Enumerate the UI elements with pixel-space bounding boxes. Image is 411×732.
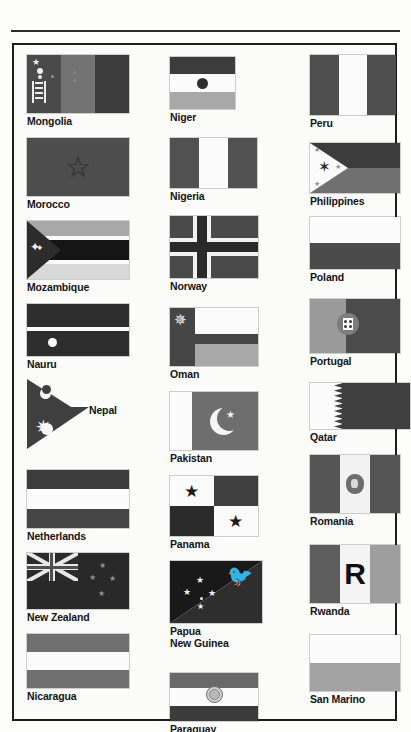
flag-entry-nauru[interactable]: Nauru (27, 304, 145, 371)
flag-caption-romania: Romania (310, 516, 411, 528)
flag-caption-new-zealand: New Zealand (27, 612, 145, 624)
flag-image-philippines: ✶ ★ ★ ★ (310, 143, 400, 193)
flag-image-san-marino (310, 635, 400, 691)
flag-caption-netherlands: Netherlands (27, 531, 145, 543)
flag-image-poland (310, 217, 400, 269)
flag-entry-poland[interactable]: Poland (310, 217, 411, 284)
flag-caption-norway: Norway (170, 281, 288, 293)
flag-entry-oman[interactable]: ✵ Oman (170, 308, 288, 381)
flag-entry-peru[interactable]: Peru (310, 55, 411, 130)
flag-entry-rwanda[interactable]: R Rwanda (310, 545, 411, 618)
flag-image-nicaragua (27, 634, 129, 688)
flag-caption-morocco: Morocco (27, 199, 145, 211)
flag-entry-philippines[interactable]: ✶ ★ ★ ★ Philippines (310, 143, 411, 208)
flag-image-nigeria (170, 138, 257, 188)
flag-entry-new-zealand[interactable]: ★ ★ ★ ★ New Zealand (27, 553, 145, 624)
flag-image-norway (170, 216, 258, 278)
flag-entry-papua-new-guinea[interactable]: 🐦 ★ ★ ★ ★ Papua New Guinea (170, 561, 288, 649)
flag-entry-nicaragua[interactable]: Nicaragua (27, 634, 145, 703)
flag-image-peru (310, 55, 396, 115)
flag-image-morocco: ☆ (27, 138, 129, 196)
flag-entry-qatar[interactable]: Qatar (310, 383, 411, 444)
flag-image-romania (310, 455, 400, 513)
flag-column-2: Niger Nigeria Norway (170, 45, 288, 719)
flag-caption-pakistan: Pakistan (170, 453, 288, 465)
flag-entry-pakistan[interactable]: ★ Pakistan (170, 392, 288, 465)
flag-entry-paraguay[interactable]: Paraguay (170, 673, 288, 732)
flag-caption-nigeria: Nigeria (170, 191, 288, 203)
flag-image-rwanda: R (310, 545, 400, 603)
flag-entry-niger[interactable]: Niger (170, 57, 288, 124)
flag-entry-norway[interactable]: Norway (170, 216, 288, 293)
flag-caption-niger: Niger (170, 112, 288, 124)
flag-entry-mozambique[interactable]: ✦ ✦ Mozambique (27, 221, 145, 294)
flag-image-portugal (310, 299, 400, 353)
flag-caption-philippines: Philippines (310, 196, 411, 208)
flag-image-niger (170, 57, 235, 109)
flag-entry-nigeria[interactable]: Nigeria (170, 138, 288, 203)
flag-caption-mongolia: Mongolia (27, 116, 145, 128)
flag-column-3: Peru ✶ ★ ★ ★ Philippines (310, 45, 411, 719)
flag-caption-peru: Peru (310, 118, 411, 130)
flag-grid-plate: ★ Mongolia ☆ (12, 43, 397, 721)
flag-caption-qatar: Qatar (310, 432, 411, 444)
flag-caption-nepal: Nepal (89, 405, 117, 417)
flag-entry-morocco[interactable]: ☆ Morocco (27, 138, 145, 211)
flag-caption-portugal: Portugal (310, 356, 411, 368)
flag-image-mozambique: ✦ ✦ (27, 221, 129, 279)
flag-entry-panama[interactable]: ★ ★ Panama (170, 476, 288, 551)
flag-caption-poland: Poland (310, 272, 411, 284)
flag-caption-panama: Panama (170, 539, 288, 551)
flag-entry-romania[interactable]: Romania (310, 455, 411, 528)
flag-image-paraguay (170, 673, 258, 721)
flag-image-panama: ★ ★ (170, 476, 258, 536)
flag-image-pakistan: ★ (170, 392, 258, 450)
flag-entry-netherlands[interactable]: Netherlands (27, 470, 145, 543)
flag-image-papua-new-guinea: 🐦 ★ ★ ★ ★ (170, 561, 262, 623)
flag-image-mongolia: ★ (27, 55, 129, 113)
flag-image-nauru (27, 304, 129, 356)
flag-entry-portugal[interactable]: Portugal (310, 299, 411, 368)
flag-caption-rwanda: Rwanda (310, 606, 411, 618)
flag-entry-nepal[interactable]: ✷ Nepal (27, 379, 145, 449)
flag-caption-mozambique: Mozambique (27, 282, 145, 294)
flag-caption-papua-new-guinea: Papua New Guinea (170, 626, 288, 649)
rwanda-r-letter: R (344, 559, 366, 589)
flag-image-qatar (310, 383, 410, 429)
flag-entry-san-marino[interactable]: San Marino (310, 635, 411, 706)
flag-column-1: ★ Mongolia ☆ (27, 45, 145, 719)
top-divider-rule (11, 30, 400, 32)
flag-caption-nauru: Nauru (27, 359, 145, 371)
flag-image-new-zealand: ★ ★ ★ ★ (27, 553, 129, 609)
flag-caption-nicaragua: Nicaragua (27, 691, 145, 703)
flag-image-oman: ✵ (170, 308, 258, 366)
flag-caption-paraguay: Paraguay (170, 724, 288, 732)
flag-caption-oman: Oman (170, 369, 288, 381)
flag-caption-san-marino: San Marino (310, 694, 411, 706)
flag-image-netherlands (27, 470, 129, 528)
flag-reference-page: ★ Mongolia ☆ (0, 0, 411, 732)
flag-entry-mongolia[interactable]: ★ Mongolia (27, 55, 145, 128)
